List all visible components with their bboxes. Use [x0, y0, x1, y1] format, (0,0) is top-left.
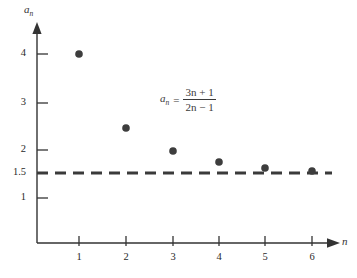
- data-point: [169, 147, 177, 155]
- x-tick-label-6: 6: [304, 251, 320, 262]
- data-point: [75, 50, 83, 58]
- x-tick-label-4: 4: [211, 251, 227, 262]
- y-tick-label-3: 3: [0, 96, 26, 107]
- x-tick-label-1: 1: [71, 251, 87, 262]
- formula-fraction-bar: [183, 99, 215, 100]
- x-tick-label-5: 5: [257, 251, 273, 262]
- x-tick-label-2: 2: [118, 251, 134, 262]
- x-tick-label-3: 3: [165, 251, 181, 262]
- y-axis-label-subscript: n: [30, 9, 34, 18]
- y-axis-arrowhead: [32, 22, 41, 34]
- x-axis-arrowhead: [327, 238, 340, 248]
- formula-lhs: an: [160, 92, 169, 107]
- formula-fraction: 3n + 1 2n − 1: [183, 86, 215, 114]
- formula-denominator: 2n − 1: [183, 101, 215, 113]
- formula-equals-sign: =: [173, 94, 179, 106]
- x-axis-label: n: [342, 235, 348, 247]
- data-point: [122, 124, 130, 132]
- formula-numerator: 3n + 1: [183, 86, 215, 98]
- formula-annotation: an = 3n + 1 2n − 1: [160, 86, 216, 114]
- y-axis-label: an: [24, 3, 33, 18]
- formula-lhs-subscript: n: [166, 98, 170, 107]
- data-point: [308, 167, 316, 175]
- y-tick-label-4: 4: [0, 47, 26, 58]
- data-point: [215, 158, 223, 166]
- sequence-plot-figure: an n 4 3 2 1.5 1 1 2 3 4 5 6 an = 3n + 1…: [0, 0, 357, 278]
- y-tick-label-1point5: 1.5: [0, 166, 26, 177]
- y-tick-label-2: 2: [0, 143, 26, 154]
- y-tick-label-1: 1: [0, 191, 26, 202]
- plot-canvas: [0, 0, 357, 278]
- data-point: [261, 164, 269, 172]
